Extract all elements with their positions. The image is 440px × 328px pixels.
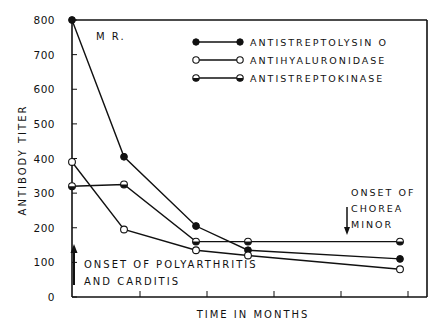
open-circle-icon: [69, 159, 76, 166]
legend-item-antistreptolysin-o: ANTISTREPTOLYSIN O: [193, 37, 388, 48]
annotation-onset-polyarthritis: ONSET OF POLYARTHRITIS AND CARDITIS: [71, 244, 258, 287]
legend-label: ANTIHYALURONIDASE: [250, 55, 386, 66]
filled-circle-icon: [397, 256, 404, 263]
half-filled-circle-icon: [237, 75, 243, 81]
filled-circle-icon: [69, 17, 76, 24]
x-ticks: [140, 291, 408, 297]
y-axis-label: ANTIBODY TITER: [17, 105, 28, 216]
y-tick-label: 800: [33, 14, 55, 26]
y-tick-label: 500: [33, 118, 55, 130]
half-filled-circle-icon: [193, 75, 199, 81]
filled-circle-icon: [121, 153, 128, 160]
y-tick-labels: 0100200300400500600700800: [33, 14, 55, 303]
filled-circle-icon: [193, 223, 200, 230]
arrow-down-icon: [344, 207, 350, 235]
open-circle-icon: [397, 266, 404, 273]
annotation-text: MINOR: [351, 219, 393, 230]
open-circle-icon: [237, 57, 243, 63]
legend: ANTISTREPTOLYSIN O ANTIHYALURONIDASE ANT…: [193, 37, 388, 84]
open-circle-icon: [245, 252, 252, 259]
y-tick-label: 200: [33, 222, 55, 234]
annotation-text: CHOREA: [351, 203, 403, 214]
half-filled-circle-icon: [121, 181, 128, 188]
y-tick-label: 300: [33, 187, 55, 199]
x-axis-label: TIME IN MONTHS: [196, 309, 310, 320]
legend-label: ANTISTREPTOKINASE: [250, 73, 384, 84]
open-circle-icon: [121, 226, 128, 233]
legend-item-antihyaluronidase: ANTIHYALURONIDASE: [193, 55, 387, 66]
half-filled-circle-icon: [69, 183, 76, 190]
open-circle-icon: [193, 247, 200, 254]
y-tick-label: 0: [48, 291, 55, 303]
filled-circle-icon: [237, 39, 243, 45]
legend-label: ANTISTREPTOLYSIN O: [250, 37, 388, 48]
antibody-titer-chart: 0100200300400500600700800 ANTIBODY TITER…: [0, 0, 440, 328]
annotation-text: AND CARDITIS: [84, 276, 180, 287]
panel-label: M R.: [96, 31, 126, 42]
y-tick-label: 600: [33, 83, 55, 95]
half-filled-circle-icon: [397, 238, 404, 245]
annotation-text: ONSET OF POLYARTHRITIS: [84, 259, 258, 270]
legend-item-antistreptokinase: ANTISTREPTOKINASE: [193, 73, 385, 84]
half-filled-circle-icon: [245, 238, 252, 245]
annotation-text: ONSET OF: [351, 187, 415, 198]
y-tick-label: 400: [33, 153, 55, 165]
y-tick-label: 100: [33, 256, 55, 268]
annotation-onset-chorea: ONSET OF CHOREA MINOR: [344, 187, 415, 235]
open-circle-icon: [193, 57, 199, 63]
half-filled-circle-icon: [193, 238, 200, 245]
y-tick-label: 700: [33, 49, 55, 61]
filled-circle-icon: [193, 39, 199, 45]
